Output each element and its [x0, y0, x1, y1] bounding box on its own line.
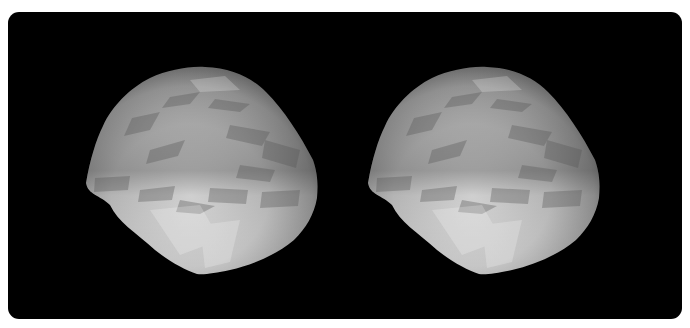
asteroid-left-view	[86, 67, 318, 274]
stereo-render	[8, 12, 682, 319]
asteroid-right-view	[368, 67, 600, 274]
image-panel	[8, 12, 682, 319]
